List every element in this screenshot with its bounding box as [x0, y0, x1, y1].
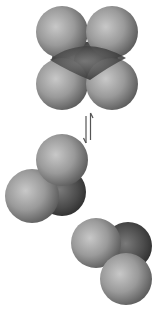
equilibrium-arrow-icon [84, 113, 94, 143]
light-atom [36, 134, 88, 186]
monomer-right-molecule [71, 218, 152, 305]
dimer-molecule [36, 6, 138, 110]
monomer-left-molecule [5, 134, 88, 223]
molecule-diagram [0, 0, 165, 311]
light-atom [36, 58, 88, 110]
light-atom [100, 253, 152, 305]
